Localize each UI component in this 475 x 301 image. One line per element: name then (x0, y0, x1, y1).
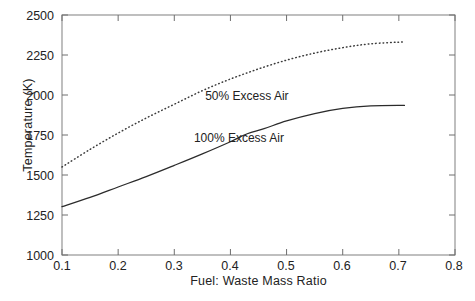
data-series (62, 42, 404, 207)
y-tick-label-2000: 2000 (6, 89, 54, 103)
y-tick-label-2250: 2250 (6, 49, 54, 63)
x-tick-label-0-2: 0.2 (98, 259, 138, 273)
y-tick-label-1250: 1250 (6, 209, 54, 223)
x-tick-label-0-6: 0.6 (322, 259, 362, 273)
series-curve-2 (62, 105, 404, 206)
chart-figure: Temperature (K) Fuel: Waste Mass Ratio 2… (0, 0, 475, 301)
y-tick-label-1500: 1500 (6, 169, 54, 183)
x-axis-title: Fuel: Waste Mass Ratio (62, 274, 455, 288)
x-tick-label-0-1: 0.1 (42, 259, 82, 273)
x-tick-label-0-3: 0.3 (154, 259, 194, 273)
plot-area (0, 0, 475, 301)
y-tick-label-2500: 2500 (6, 9, 54, 23)
series-curve-1 (62, 42, 404, 167)
x-tick-label-0-4: 0.4 (210, 259, 250, 273)
series-label-50-excess-air: 50% Excess Air (205, 89, 288, 103)
x-tick-label-0-8: 0.8 (434, 259, 474, 273)
x-tick-label-0-5: 0.5 (266, 259, 306, 273)
series-label-100-excess-air: 100% Excess Air (194, 131, 284, 145)
y-tick-label-1750: 1750 (6, 129, 54, 143)
x-tick-label-0-7: 0.7 (378, 259, 418, 273)
